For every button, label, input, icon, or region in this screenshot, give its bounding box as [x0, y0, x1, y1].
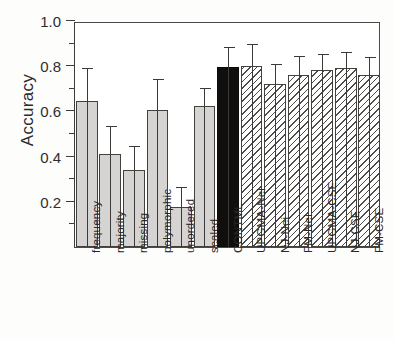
- x-tick-label: UPGMA-CSE: [326, 182, 338, 253]
- y-tick-minor: [69, 133, 75, 134]
- error-bar-cap: [82, 68, 93, 69]
- x-tick-label: UPGMA-Nei: [255, 188, 267, 253]
- error-bar: [87, 68, 88, 247]
- y-tick-label: 0.8: [15, 58, 61, 75]
- x-tick-label: missing: [137, 213, 149, 253]
- y-tick-major: [66, 201, 75, 202]
- error-bar: [228, 47, 229, 247]
- error-bar: [157, 79, 158, 247]
- x-tick-label: FM-CSE: [373, 208, 385, 253]
- error-bar: [346, 52, 347, 247]
- error-bar-cap: [341, 52, 352, 53]
- y-tick-major: [66, 156, 75, 157]
- error-bar: [134, 146, 135, 247]
- y-tick-major: [66, 65, 75, 66]
- error-bar: [252, 44, 253, 247]
- error-bar-cap: [129, 146, 140, 147]
- error-bar-cap: [224, 47, 235, 48]
- x-tick-label: NJ-Nei: [279, 217, 291, 253]
- y-tick-minor: [69, 88, 75, 89]
- error-bar-cap: [200, 88, 211, 89]
- y-tick-major: [66, 110, 75, 111]
- error-bar-cap: [271, 64, 282, 65]
- x-tick-label: polymorphic: [161, 189, 173, 253]
- error-bar: [181, 187, 182, 247]
- y-tick-major: [66, 20, 75, 21]
- y-tick-minor: [69, 178, 75, 179]
- error-bar-cap: [318, 54, 329, 55]
- y-tick-minor: [69, 43, 75, 44]
- error-bar: [204, 88, 205, 247]
- y-tick-minor: [69, 223, 75, 224]
- x-tick-label: frequency: [90, 201, 102, 253]
- x-tick-label: CONTML: [232, 203, 244, 253]
- x-tick-label: majority: [114, 211, 126, 253]
- x-tick-label: FM-Nei: [302, 214, 314, 253]
- y-tick-label: 0.6: [15, 103, 61, 120]
- error-bar: [110, 126, 111, 247]
- error-bar: [322, 54, 323, 247]
- y-tick-label: 0.4: [15, 149, 61, 166]
- error-bar-cap: [294, 56, 305, 57]
- error-bar-cap: [365, 57, 376, 58]
- accuracy-bar-chart-figure: Accuracy 1.00.80.60.40.2 frequencymajori…: [0, 0, 394, 340]
- y-tick-label: 1.0: [15, 13, 61, 30]
- x-tick-label: NJ-CSE: [349, 210, 361, 253]
- error-bar-cap: [176, 187, 187, 188]
- error-bar: [369, 57, 370, 247]
- error-bar: [275, 64, 276, 247]
- error-bar-cap: [106, 126, 117, 127]
- y-tick-label: 0.2: [15, 194, 61, 211]
- error-bar-cap: [247, 44, 258, 45]
- error-bar: [299, 56, 300, 247]
- error-bar-cap: [153, 79, 164, 80]
- x-tick-label: scaled: [208, 219, 220, 253]
- x-tick-label: unordered: [184, 199, 196, 253]
